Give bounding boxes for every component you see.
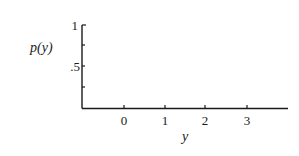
x-axis-label: y <box>180 129 189 144</box>
x-tick-label-3: 3 <box>244 113 251 128</box>
y-tick-label-05: .5 <box>70 59 80 74</box>
x-tick-label-1: 1 <box>162 113 169 128</box>
x-tick-label-2: 2 <box>202 113 209 128</box>
x-tick-label-0: 0 <box>121 113 128 128</box>
y-tick-label-1: 1 <box>72 18 79 33</box>
chart-canvas: 1 .5 p(y) 0 1 2 3 y <box>0 0 299 156</box>
y-axis-label: p(y) <box>29 40 53 56</box>
